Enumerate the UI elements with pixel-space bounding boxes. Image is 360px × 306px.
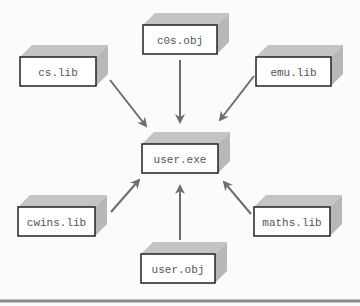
box-top-face (254, 195, 342, 207)
arrow-cs-lib-to-user-exe (110, 80, 146, 126)
arrow-cwins-lib-to-user-exe (111, 180, 139, 212)
node-label: cs.lib (38, 67, 78, 79)
node-maths-lib: maths.lib (254, 195, 342, 236)
node-user-obj: user.obj (141, 242, 227, 283)
node-c0s-obj: c0s.obj (143, 13, 229, 54)
box-top-face (143, 13, 229, 25)
box-top-face (18, 195, 107, 207)
node-label: user.exe (154, 154, 207, 166)
arrow-maths-lib-to-user-exe (224, 182, 251, 214)
node-cs-lib: cs.lib (20, 45, 108, 86)
node-label: user.obj (152, 264, 205, 276)
box-top-face (256, 45, 343, 57)
node-emu-lib: emu.lib (256, 45, 343, 86)
node-user-exe: user.exe (142, 132, 230, 173)
arrow-emu-lib-to-user-exe (220, 76, 254, 120)
diagram-canvas: user.exec0s.objcs.libemu.libcwins.libmat… (0, 0, 360, 306)
box-top-face (141, 242, 227, 254)
node-cwins-lib: cwins.lib (18, 195, 107, 236)
box-top-face (20, 45, 108, 57)
box-top-face (142, 132, 230, 144)
node-label: emu.lib (270, 67, 316, 79)
nodes: user.exec0s.objcs.libemu.libcwins.libmat… (18, 13, 343, 283)
node-label: c0s.obj (157, 35, 203, 47)
node-label: cwins.lib (27, 217, 86, 229)
node-label: maths.lib (262, 217, 321, 229)
